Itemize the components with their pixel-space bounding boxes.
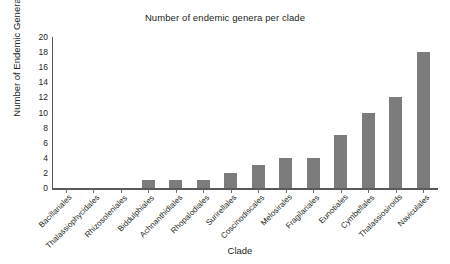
y-axis-tick-label: 16 bbox=[26, 62, 48, 72]
y-axis-title: Number of Endemic Genera bbox=[11, 0, 22, 128]
y-axis-tick-label: 10 bbox=[26, 108, 48, 118]
x-axis-tick bbox=[341, 189, 342, 193]
y-axis-tick-label: 2 bbox=[26, 168, 48, 178]
x-axis-title: Clade bbox=[40, 245, 440, 256]
y-axis-tick-label: 0 bbox=[26, 183, 48, 193]
x-axis-tick bbox=[176, 189, 177, 193]
y-axis-tick-label: 20 bbox=[26, 32, 48, 42]
y-axis-tick-label: 4 bbox=[26, 153, 48, 163]
plot-area bbox=[52, 37, 437, 188]
x-axis-ticks bbox=[52, 189, 438, 194]
y-axis-tick-label: 8 bbox=[26, 123, 48, 133]
chart-title: Number of endemic genera per clade bbox=[0, 12, 450, 23]
bar bbox=[224, 173, 237, 188]
bar bbox=[307, 158, 320, 188]
bar bbox=[169, 180, 182, 188]
y-axis-tick-labels: 02468101214161820 bbox=[24, 37, 48, 188]
bar bbox=[252, 165, 265, 188]
bar bbox=[334, 135, 347, 188]
bar bbox=[362, 113, 375, 189]
y-axis-tick-label: 14 bbox=[26, 77, 48, 87]
bar bbox=[279, 158, 292, 188]
bar bbox=[389, 97, 402, 188]
x-axis-tick bbox=[121, 189, 122, 193]
x-axis-tick-labels: BacillarialesThalassiophycidalesRhizosol… bbox=[52, 195, 438, 245]
y-axis-tick-label: 12 bbox=[26, 92, 48, 102]
y-axis-tick-label: 18 bbox=[26, 47, 48, 57]
bar bbox=[197, 180, 210, 188]
bar bbox=[417, 52, 430, 188]
y-axis-tick-label: 6 bbox=[26, 138, 48, 148]
bar bbox=[142, 180, 155, 188]
bar-chart-figure: Number of endemic genera per clade Numbe… bbox=[0, 0, 450, 264]
